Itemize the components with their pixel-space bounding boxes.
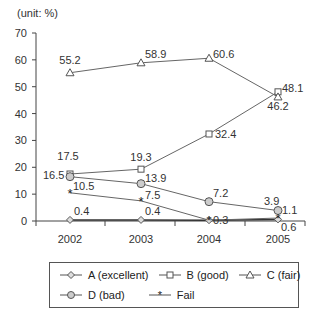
legend-label-c: C (fair) bbox=[267, 269, 301, 281]
legend: A (excellent) B (good) C (fair) D (bad) … bbox=[49, 262, 299, 308]
x-tick-label: 2005 bbox=[266, 233, 290, 245]
y-tick-label: 70 bbox=[15, 27, 27, 39]
svg-text:*: * bbox=[275, 211, 280, 226]
legend-item-b: B (good) bbox=[159, 269, 229, 281]
data-label: 13.9 bbox=[145, 172, 166, 184]
triangle-marker-icon bbox=[239, 270, 261, 280]
legend-label-fail: Fail bbox=[177, 289, 195, 301]
legend-item-a: A (excellent) bbox=[60, 269, 149, 281]
legend-item-fail: * Fail bbox=[149, 289, 195, 301]
y-tick-label: 20 bbox=[15, 161, 27, 173]
y-tick-label: 60 bbox=[15, 54, 27, 66]
x-tick-label: 2002 bbox=[58, 233, 82, 245]
data-label: 19.3 bbox=[130, 151, 151, 163]
data-label: 7.2 bbox=[213, 187, 228, 199]
x-tick-label: 2004 bbox=[197, 233, 221, 245]
data-label: 55.2 bbox=[59, 54, 80, 66]
data-label: 0.6 bbox=[281, 221, 296, 233]
legend-item-d: D (bad) bbox=[60, 289, 125, 301]
data-label: 60.6 bbox=[213, 48, 234, 60]
data-label: 0.4 bbox=[74, 205, 89, 217]
legend-label-a: A (excellent) bbox=[88, 269, 149, 281]
data-label: 32.4 bbox=[215, 128, 236, 140]
data-label: 10.5 bbox=[73, 180, 94, 192]
legend-item-c: C (fair) bbox=[239, 269, 301, 281]
x-tick-label: 2003 bbox=[129, 233, 153, 245]
y-tick-label: 30 bbox=[15, 134, 27, 146]
y-tick-label: 50 bbox=[15, 81, 27, 93]
series-line bbox=[70, 92, 278, 174]
svg-text:*: * bbox=[206, 213, 211, 228]
y-tick-label: 0 bbox=[21, 215, 27, 227]
svg-text:*: * bbox=[138, 194, 143, 209]
data-label: 0.3 bbox=[213, 214, 228, 226]
series-line bbox=[70, 177, 278, 211]
series-line bbox=[70, 58, 278, 97]
svg-text:*: * bbox=[67, 186, 72, 201]
square-marker-icon bbox=[159, 270, 181, 280]
y-tick-label: 10 bbox=[15, 188, 27, 200]
data-label: 58.9 bbox=[145, 48, 166, 60]
svg-text:*: * bbox=[158, 290, 163, 300]
star-marker-icon: * bbox=[149, 290, 171, 300]
data-label: 16.5 bbox=[43, 169, 64, 181]
data-label: 7.5 bbox=[145, 189, 160, 201]
circle-marker-icon bbox=[60, 290, 82, 300]
data-label: 1.1 bbox=[282, 204, 297, 216]
data-label: 0.4 bbox=[145, 205, 160, 217]
data-label: 3.9 bbox=[264, 195, 279, 207]
data-label: 48.1 bbox=[282, 82, 303, 94]
unit-label: (unit: %) bbox=[17, 7, 58, 19]
legend-label-b: B (good) bbox=[187, 269, 229, 281]
diamond-marker-icon bbox=[60, 270, 82, 280]
data-label: 46.2 bbox=[267, 100, 288, 112]
legend-label-d: D (bad) bbox=[88, 289, 125, 301]
y-tick-label: 40 bbox=[15, 108, 27, 120]
data-label: 17.5 bbox=[57, 150, 78, 162]
